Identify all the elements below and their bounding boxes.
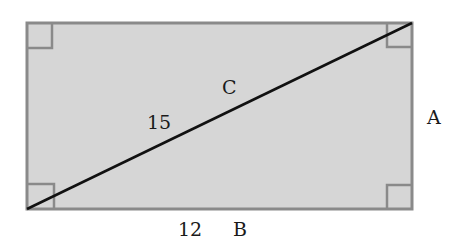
diagonal-length-label: 15 xyxy=(147,111,171,133)
bottom-name-label: B xyxy=(233,218,247,240)
diagonal-name-label: C xyxy=(222,76,237,98)
side-right-label: A xyxy=(426,106,441,128)
rectangle-diagonal-diagram: C 15 A 12 B xyxy=(0,0,450,250)
bottom-length-label: 12 xyxy=(178,218,202,240)
